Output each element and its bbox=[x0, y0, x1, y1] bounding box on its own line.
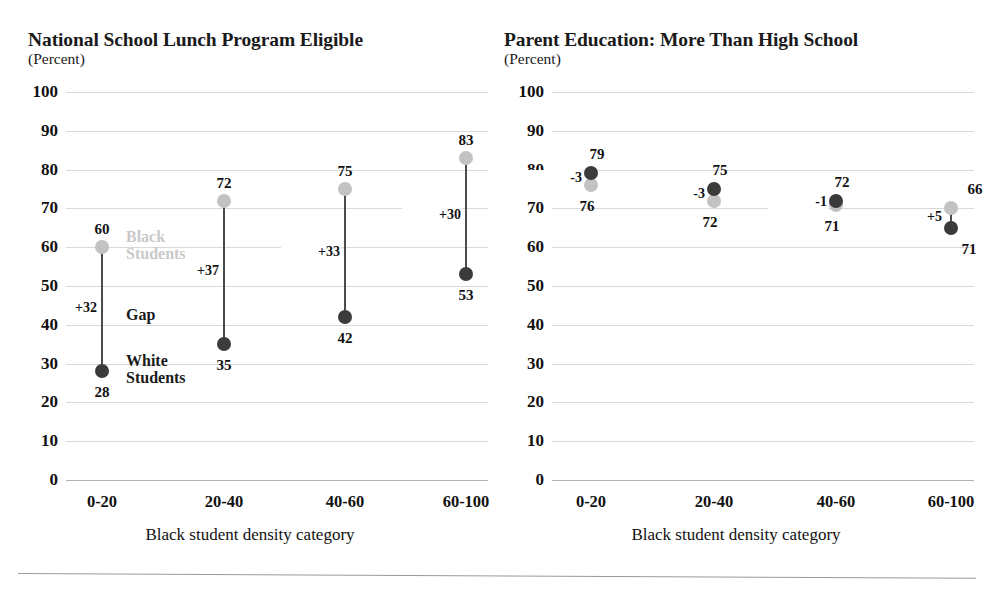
x-axis-tick: 20-40 bbox=[659, 492, 769, 512]
data-point-black-students bbox=[459, 151, 473, 165]
value-label-white-students: 71 bbox=[929, 241, 992, 258]
legend-white-students: WhiteStudents bbox=[126, 352, 186, 387]
gridline bbox=[552, 325, 974, 326]
chart-panels: National School Lunch Program Eligible (… bbox=[0, 0, 992, 602]
value-label-white-students: 79 bbox=[557, 146, 637, 163]
y-axis-tick: 80 bbox=[2, 161, 58, 178]
gridline bbox=[552, 131, 974, 132]
connector-stem bbox=[344, 189, 346, 317]
y-axis-tick: 30 bbox=[2, 355, 58, 372]
gridline bbox=[66, 286, 488, 287]
x-axis-tick: 60-100 bbox=[896, 492, 992, 512]
y-axis-tick: 40 bbox=[2, 316, 58, 333]
x-axis-tick: 20-40 bbox=[169, 492, 279, 512]
gap-value-label: +37 bbox=[160, 263, 220, 279]
x-axis-label-parent-education: Black student density category bbox=[526, 525, 946, 545]
x-axis-tick: 0-20 bbox=[536, 492, 646, 512]
x-axis-label-lunch: Black student density category bbox=[40, 525, 460, 545]
value-label-black-students: 72 bbox=[184, 175, 264, 192]
gap-value-label: +33 bbox=[281, 244, 341, 260]
y-axis-tick: 20 bbox=[488, 393, 544, 410]
y-axis-tick: 0 bbox=[488, 471, 544, 488]
data-point-white-students bbox=[584, 166, 598, 180]
gridline bbox=[552, 92, 974, 93]
connector-stem bbox=[223, 201, 225, 345]
gridline bbox=[552, 441, 974, 442]
gridline bbox=[66, 402, 488, 403]
y-axis-tick: 10 bbox=[2, 432, 58, 449]
value-label-black-students: 75 bbox=[305, 163, 385, 180]
plot-area-parent-education: 10090807060504030201000-2020-4040-6060-1… bbox=[496, 0, 992, 560]
y-axis-tick: 90 bbox=[2, 122, 58, 139]
gap-value-label: -1 bbox=[768, 194, 828, 210]
y-axis-tick: 60 bbox=[2, 238, 58, 255]
legend-black-students: BlackStudents bbox=[126, 228, 186, 263]
chart-panel-lunch: National School Lunch Program Eligible (… bbox=[0, 0, 496, 560]
gridline bbox=[66, 131, 488, 132]
y-axis-tick: 70 bbox=[2, 199, 58, 216]
y-axis-tick: 70 bbox=[488, 199, 544, 216]
gap-value-label: -3 bbox=[646, 186, 706, 202]
gridline bbox=[66, 92, 488, 93]
gridline bbox=[66, 480, 488, 481]
y-axis-tick: 40 bbox=[488, 316, 544, 333]
x-axis-tick: 40-60 bbox=[290, 492, 400, 512]
gridline bbox=[66, 325, 488, 326]
value-label-white-students: 75 bbox=[680, 162, 760, 179]
legend-white-students-line1: White bbox=[126, 352, 168, 369]
data-point-black-students bbox=[95, 240, 109, 254]
gridline bbox=[66, 441, 488, 442]
y-axis-tick: 0 bbox=[2, 471, 58, 488]
y-axis-tick: 100 bbox=[488, 83, 544, 100]
y-axis-tick: 30 bbox=[488, 355, 544, 372]
gridline bbox=[552, 286, 974, 287]
connector-stem bbox=[465, 158, 467, 274]
data-point-white-students bbox=[944, 221, 958, 235]
gap-value-label: +32 bbox=[38, 300, 98, 316]
value-label-black-students: 72 bbox=[670, 214, 750, 231]
legend-white-students-line2: Students bbox=[126, 369, 186, 386]
data-point-white-students bbox=[95, 364, 109, 378]
gridline bbox=[552, 170, 974, 171]
legend-gap: Gap bbox=[126, 306, 155, 323]
data-point-black-students bbox=[944, 201, 958, 215]
value-label-white-students: 42 bbox=[305, 330, 385, 347]
data-point-white-students bbox=[707, 182, 721, 196]
y-axis-tick: 10 bbox=[488, 432, 544, 449]
gap-value-label: -3 bbox=[523, 170, 583, 186]
y-axis-tick: 20 bbox=[2, 393, 58, 410]
plot-area-lunch: 10090807060504030201000-2020-4040-6060-1… bbox=[0, 0, 496, 560]
chart-panel-parent-education: Parent Education: More Than High School … bbox=[496, 0, 992, 560]
y-axis-tick: 50 bbox=[2, 277, 58, 294]
gridline bbox=[552, 402, 974, 403]
data-point-black-students bbox=[584, 178, 598, 192]
value-label-black-students: 76 bbox=[547, 198, 627, 215]
value-label-white-students: 35 bbox=[184, 357, 264, 374]
value-label-white-students: 28 bbox=[62, 384, 142, 401]
scan-artifact-bottom bbox=[0, 592, 992, 602]
gap-value-label: +30 bbox=[402, 207, 462, 223]
connector-stem bbox=[101, 247, 103, 371]
data-point-white-students bbox=[217, 337, 231, 351]
data-point-white-students bbox=[338, 310, 352, 324]
legend-black-students-line1: Black bbox=[126, 228, 165, 245]
x-axis-tick: 0-20 bbox=[47, 492, 157, 512]
value-label-black-students: 71 bbox=[792, 218, 872, 235]
x-axis-tick: 40-60 bbox=[781, 492, 891, 512]
y-axis-tick: 60 bbox=[488, 238, 544, 255]
y-axis-tick: 100 bbox=[2, 83, 58, 100]
legend-black-students-line2: Students bbox=[126, 245, 186, 262]
value-label-white-students: 72 bbox=[802, 174, 882, 191]
data-point-white-students bbox=[829, 194, 843, 208]
data-point-white-students bbox=[459, 267, 473, 281]
data-point-black-students bbox=[217, 194, 231, 208]
value-label-black-students: 66 bbox=[935, 181, 992, 198]
y-axis-tick: 90 bbox=[488, 122, 544, 139]
gridline bbox=[552, 480, 974, 481]
gridline bbox=[552, 364, 974, 365]
gridline bbox=[66, 170, 488, 171]
gap-value-label: +5 bbox=[883, 209, 943, 225]
y-axis-tick: 50 bbox=[488, 277, 544, 294]
gridline bbox=[552, 247, 974, 248]
data-point-black-students bbox=[338, 182, 352, 196]
